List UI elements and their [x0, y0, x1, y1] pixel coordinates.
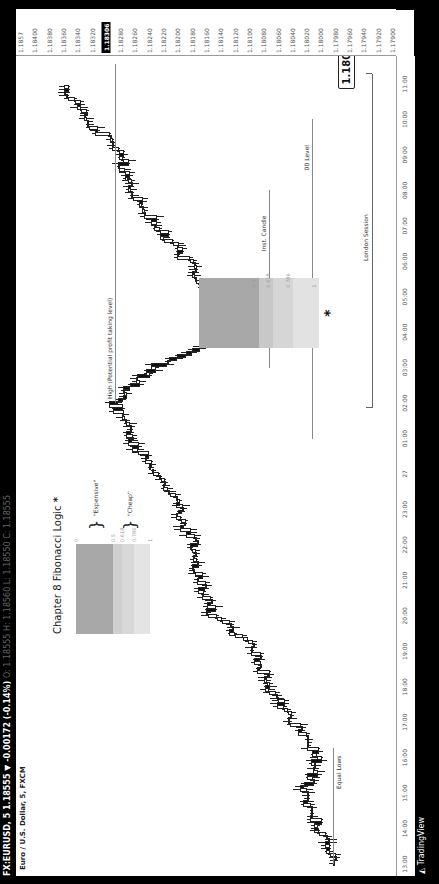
legend-zone-expensive — [76, 544, 113, 634]
candle-body — [328, 838, 330, 842]
candle-body — [211, 599, 213, 603]
candle-body — [198, 587, 205, 591]
price-tick: 1.18320 — [88, 28, 95, 53]
candle-body — [123, 386, 130, 390]
candle-body — [160, 230, 169, 234]
fib-zone — [259, 278, 273, 348]
price-tick: 1.18360 — [59, 28, 66, 53]
legend-level: 0 — [73, 539, 79, 542]
price-tick: 1.18380 — [45, 28, 52, 53]
time-tick: 11:00 — [401, 75, 408, 92]
fib-level-label: 0.5 — [251, 280, 257, 288]
candle-body — [195, 572, 203, 576]
london-session-label: London Session — [362, 214, 369, 261]
candle-body — [222, 620, 230, 624]
high-level-line — [115, 64, 116, 403]
candle-body — [75, 100, 80, 104]
time-tick: 23:00 — [401, 501, 408, 518]
price-tick: 1.17940 — [360, 28, 367, 53]
legend-zone-0618 — [113, 544, 122, 634]
candle-body — [133, 197, 143, 201]
candle-body — [131, 191, 133, 195]
fib-zone — [273, 278, 293, 348]
candle-body — [181, 519, 186, 523]
fib-level-label: 0.618 — [265, 273, 271, 287]
time-tick: 21:00 — [401, 572, 408, 589]
chart-stage: FX:EURUSD, 5 1.18555 ▼ -0.00172 (-0.14%)… — [0, 0, 439, 884]
expensive-label: "Expensive" — [92, 480, 99, 516]
time-tick: 19:00 — [401, 643, 408, 660]
cheap-label: "Cheap" — [126, 491, 133, 516]
price-tick: 1.18040 — [288, 28, 295, 53]
candle-body — [81, 109, 86, 113]
legend-zone-cheap — [134, 544, 150, 634]
candle-body — [176, 496, 178, 500]
candle-body — [243, 637, 248, 641]
candle-body — [319, 832, 326, 836]
candle-body — [313, 779, 315, 783]
time-tick: 22:00 — [401, 536, 408, 553]
tradingview-logo-icon: ◭ — [417, 865, 426, 874]
time-tick: 06:00 — [401, 253, 408, 270]
time-tick: 08:00 — [401, 182, 408, 199]
candle-body — [119, 150, 124, 154]
london-session-bracket-left — [366, 407, 372, 408]
time-tick: 27 — [401, 470, 408, 478]
candle-body — [248, 640, 254, 644]
candle-body — [87, 120, 89, 124]
candle-body — [194, 262, 196, 266]
candle-body — [195, 537, 197, 541]
candle-body — [68, 97, 75, 101]
price-tick: 1.1857 — [17, 32, 24, 53]
candle-body — [278, 700, 285, 704]
legend-title: Chapter 8 Fibonacci Logic * — [52, 497, 63, 634]
price-tick: 1.17980 — [331, 28, 338, 53]
legend-title-text: Chapter 8 Fibonacci Logic — [52, 505, 63, 634]
time-axis[interactable]: 13:0014:0015:0016:0017:0018:0019:0020:00… — [396, 56, 415, 876]
candle-body — [151, 363, 167, 367]
candle-body — [217, 617, 222, 621]
price-tick: 1.18280 — [117, 28, 124, 53]
candle-body — [164, 239, 173, 243]
candle-body — [192, 549, 196, 553]
equal-lows-line — [333, 748, 334, 864]
price-tick: 1.18020 — [303, 28, 310, 53]
00-level-label: 00 Level — [303, 145, 310, 170]
candle-body — [284, 708, 287, 712]
candle-body — [232, 626, 234, 630]
price-axis[interactable]: 1.18571.184001.183801.183601.183401.1832… — [16, 9, 396, 56]
tradingview-brand[interactable]: ◭ TradingView — [417, 817, 426, 874]
price-tick: 1.18200 — [174, 28, 181, 53]
candle-body — [267, 682, 270, 686]
legend-level: 1 — [147, 539, 153, 542]
candle-body — [290, 723, 302, 727]
candle-body — [190, 259, 194, 263]
candle-body — [208, 614, 217, 618]
fib-legend: Chapter 8 Fibonacci Logic * 0 0.5 0.618 … — [52, 444, 172, 634]
candle-body — [307, 735, 309, 739]
time-tick: 14:00 — [401, 820, 408, 837]
fib-level-label: 1 — [311, 284, 317, 287]
high-level-label: High (Potential profit taking level) — [106, 298, 113, 399]
london-session-bracket — [372, 74, 373, 408]
time-tick: 18:00 — [401, 678, 408, 695]
price-tick: 1.18160 — [203, 28, 210, 53]
price-tick: 1.17960 — [346, 28, 353, 53]
price-tick: 1.18260 — [131, 28, 138, 53]
time-tick: 17:00 — [401, 714, 408, 731]
candle-body — [307, 791, 309, 795]
candle-body — [269, 691, 275, 695]
symbol-line: FX:EURUSD, 5 1.18555 ▼ -0.00172 (-0.14%) — [3, 681, 12, 876]
fib-retracement-box — [199, 278, 319, 348]
candle-body — [197, 561, 199, 565]
brace-cheap-icon: } — [122, 520, 138, 530]
price-tick: 1.18000 — [317, 28, 324, 53]
inst-candle-label: Inst. Candle — [260, 216, 267, 252]
fib-level-label: 0.786 — [285, 273, 291, 287]
candle-body — [119, 168, 125, 172]
price-tick: 1.18120 — [231, 28, 238, 53]
time-tick: 03:00 — [401, 359, 408, 376]
time-tick: 07:00 — [401, 217, 408, 234]
candle-wick — [123, 426, 134, 427]
candle-wick — [325, 839, 337, 840]
